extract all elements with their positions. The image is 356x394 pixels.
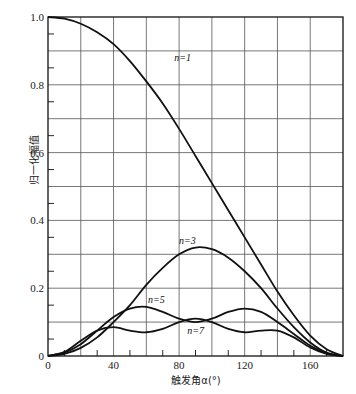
x-axis-label: 触发角α(°) [171,374,220,386]
y-tick-label: 0.4 [30,214,44,226]
x-tick-label: 120 [236,359,253,371]
x-tick-label: 0 [45,359,51,371]
curve-label: n=7 [187,325,205,336]
y-tick-label: 1.0 [30,11,44,23]
curve-label: n=5 [148,294,165,305]
y-tick-label: 0.2 [30,282,44,294]
x-tick-label: 160 [302,359,319,371]
y-tick-label: 0 [39,350,45,362]
axis-ticks: 0408012016000.20.40.60.81.0 [30,11,326,371]
curve-label: n=3 [179,235,196,246]
grid [48,17,343,356]
y-tick-label: 0.8 [30,79,44,91]
harmonic-amplitude-chart: n=1n=3n=5n=7 0408012016000.20.40.60.81.0… [0,0,356,394]
curve-label: n=1 [174,52,191,63]
x-tick-label: 80 [174,359,186,371]
y-axis-label: 归一化幅值 [28,135,40,185]
x-tick-label: 40 [108,359,120,371]
